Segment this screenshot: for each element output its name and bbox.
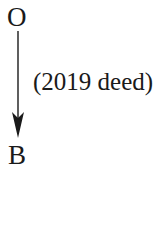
edge-label: (2019 deed) bbox=[33, 69, 153, 94]
node-b: B bbox=[8, 142, 26, 169]
